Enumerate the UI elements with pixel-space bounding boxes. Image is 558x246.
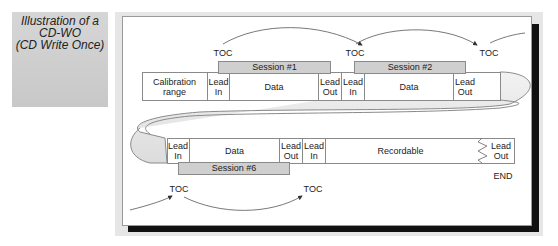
cell-lead-in-6: Lead In	[167, 139, 189, 163]
cell-data-2: Data	[364, 73, 453, 100]
session-6-bar: Session #6	[178, 162, 290, 175]
end-label: END	[490, 171, 516, 181]
cell-lead-in-next: Lead In	[302, 139, 325, 163]
cell-lead-out-6: Lead Out	[279, 139, 302, 163]
toc-label-top-1: TOC	[208, 48, 238, 58]
cd-wo-diagram	[0, 0, 558, 246]
cell-lead-in-1: Lead In	[207, 73, 229, 100]
cell-lead-in-2: Lead In	[341, 73, 364, 100]
cell-recordable: Recordable	[325, 139, 475, 163]
toc-arrow-5	[184, 196, 302, 210]
toc-label-bottom-1: TOC	[164, 184, 194, 194]
toc-arrow-3	[490, 33, 525, 43]
cell-calibration-range: Calibration range	[142, 73, 207, 100]
toc-label-bottom-2: TOC	[298, 184, 328, 194]
cell-lead-out-final: Lead Out	[488, 139, 514, 163]
cell-data-1: Data	[229, 73, 318, 100]
toc-arrow-4	[130, 196, 172, 210]
cell-lead-out-1: Lead Out	[318, 73, 341, 100]
toc-label-top-2: TOC	[340, 48, 370, 58]
cell-data-6: Data	[189, 139, 279, 163]
toc-arrow-2	[356, 30, 477, 45]
cell-lead-out-2: Lead Out	[453, 73, 476, 100]
toc-label-top-3: TOC	[474, 48, 504, 58]
toc-arrow-1	[223, 28, 362, 45]
